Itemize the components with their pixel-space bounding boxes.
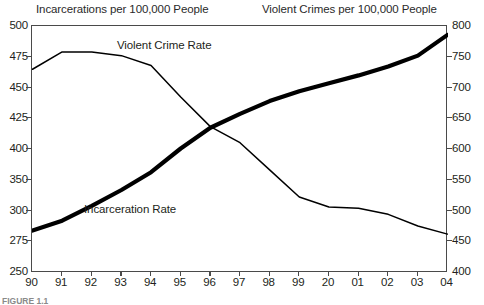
tick-mark	[91, 271, 92, 276]
tick-mark	[26, 87, 31, 88]
tick-mark	[180, 271, 181, 276]
tick-mark	[209, 271, 210, 276]
tick-mark	[26, 148, 31, 149]
left-axis-tick-400: 400	[0, 142, 28, 154]
left-axis-tick-300: 300	[0, 204, 28, 216]
x-axis-tick-93: 93	[109, 276, 131, 288]
tick-mark	[447, 210, 452, 211]
right-axis-tick-550: 550	[452, 173, 482, 185]
right-axis-tick-450: 450	[452, 234, 482, 246]
tick-mark	[269, 271, 270, 276]
tick-mark	[26, 117, 31, 118]
tick-mark	[26, 179, 31, 180]
tick-mark	[447, 117, 452, 118]
x-axis-tick-01: 01	[347, 276, 369, 288]
x-axis-tick-97: 97	[228, 276, 250, 288]
left-axis-tick-350: 350	[0, 173, 28, 185]
right-axis-tick-600: 600	[452, 142, 482, 154]
figure-caption: FIGURE 1.1	[2, 296, 472, 305]
x-axis-tick-04: 04	[436, 276, 458, 288]
plot-area	[31, 25, 447, 272]
right-axis-tick-650: 650	[452, 111, 482, 123]
x-axis-tick-91: 91	[50, 276, 72, 288]
tick-mark	[150, 271, 151, 276]
x-axis-tick-92: 92	[80, 276, 102, 288]
right-axis-tick-700: 700	[452, 81, 482, 93]
x-axis-tick-03: 03	[406, 276, 428, 288]
tick-mark	[447, 148, 452, 149]
tick-mark	[447, 240, 452, 241]
series-line-incarceration-rate	[33, 35, 448, 231]
x-axis-tick-95: 95	[169, 276, 191, 288]
tick-mark	[447, 56, 452, 57]
x-axis-tick-20: 20	[317, 276, 339, 288]
x-axis-tick-98: 98	[258, 276, 280, 288]
left-axis-tick-450: 450	[0, 81, 28, 93]
x-axis-tick-99: 99	[287, 276, 309, 288]
left-axis-tick-425: 425	[0, 111, 28, 123]
tick-mark	[447, 87, 452, 88]
x-axis-tick-90: 90	[21, 276, 43, 288]
tick-mark	[298, 271, 299, 276]
x-axis-tick-94: 94	[139, 276, 161, 288]
right-axis-tick-500: 500	[452, 204, 482, 216]
left-axis-title: Incarcerations per 100,000 People	[36, 3, 209, 16]
x-axis-tick-02: 02	[376, 276, 398, 288]
tick-mark	[387, 271, 388, 276]
right-axis-title: Violent Crimes per 100,000 People	[262, 3, 437, 16]
chart-figure: Incarcerations per 100,000 People Violen…	[0, 0, 484, 305]
series-label-violent-crime-rate: Violent Crime Rate	[117, 39, 212, 52]
tick-mark	[328, 271, 329, 276]
left-axis-tick-275: 275	[0, 234, 28, 246]
tick-mark	[417, 271, 418, 276]
left-axis-tick-500: 500	[0, 19, 28, 31]
plot-canvas	[32, 26, 448, 273]
right-axis-tick-750: 750	[452, 50, 482, 62]
series-label-incarceration-rate: Incarceration Rate	[84, 203, 176, 216]
tick-mark	[447, 179, 452, 180]
tick-mark	[358, 271, 359, 276]
left-axis-tick-475: 475	[0, 50, 28, 62]
tick-mark	[120, 271, 121, 276]
tick-mark	[26, 240, 31, 241]
x-axis-tick-96: 96	[198, 276, 220, 288]
tick-mark	[26, 56, 31, 57]
tick-mark	[61, 271, 62, 276]
tick-mark	[239, 271, 240, 276]
tick-mark	[26, 210, 31, 211]
right-axis-tick-800: 800	[452, 19, 482, 31]
